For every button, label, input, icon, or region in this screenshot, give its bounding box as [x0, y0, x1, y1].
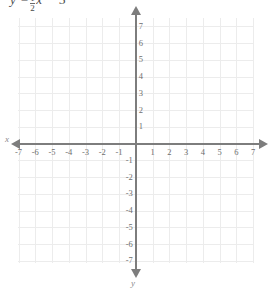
- y-tick-label: -3: [119, 189, 133, 198]
- y-axis-up-arrow-icon: [131, 6, 141, 15]
- x-tick-label: 3: [179, 148, 193, 157]
- graph-canvas: y =12x − 5 x y -7-6-5-4-3-2-112345671234…: [0, 0, 269, 290]
- gridline-vertical: [203, 18, 204, 263]
- y-tick-label: 6: [139, 39, 153, 48]
- y-axis-label: y: [131, 278, 135, 288]
- gridline-vertical: [220, 18, 221, 263]
- gridline-vertical: [86, 18, 87, 263]
- x-tick-label: -6: [28, 148, 42, 157]
- gridline-vertical: [35, 18, 36, 263]
- x-tick-label: 7: [246, 148, 260, 157]
- y-tick-label: -2: [119, 173, 133, 182]
- y-tick-label: 3: [139, 89, 153, 98]
- x-tick-label: -5: [45, 148, 59, 157]
- x-axis: [18, 143, 262, 145]
- y-tick-label: 4: [139, 72, 153, 81]
- x-axis-label: x: [5, 134, 9, 144]
- x-tick-label: 2: [162, 148, 176, 157]
- x-tick-label: 1: [146, 148, 160, 157]
- y-tick-label: 1: [139, 122, 153, 131]
- x-tick-label: -1: [112, 148, 126, 157]
- y-axis: [135, 13, 137, 273]
- y-tick-label: -7: [119, 256, 133, 265]
- x-tick-label: -7: [12, 148, 26, 157]
- x-tick-label: 5: [213, 148, 227, 157]
- y-tick-label: -1: [119, 156, 133, 165]
- x-tick-label: -3: [79, 148, 93, 157]
- x-tick-label: -2: [95, 148, 109, 157]
- y-tick-label: 5: [139, 55, 153, 64]
- y-tick-label: 7: [139, 22, 153, 31]
- y-tick-label: -4: [119, 206, 133, 215]
- gridline-vertical: [236, 18, 237, 263]
- y-tick-label: 2: [139, 106, 153, 115]
- x-tick-label: -4: [62, 148, 76, 157]
- y-tick-label: -5: [119, 223, 133, 232]
- gridline-vertical: [186, 18, 187, 263]
- gridline-vertical: [253, 18, 254, 263]
- gridline-vertical: [102, 18, 103, 263]
- gridline-vertical: [169, 18, 170, 263]
- x-axis-right-arrow-icon: [259, 139, 268, 149]
- x-tick-label: 6: [229, 148, 243, 157]
- x-tick-label: 4: [196, 148, 210, 157]
- y-axis-down-arrow-icon: [131, 269, 141, 278]
- gridline-vertical: [69, 18, 70, 263]
- y-tick-label: -6: [119, 240, 133, 249]
- gridline-vertical: [52, 18, 53, 263]
